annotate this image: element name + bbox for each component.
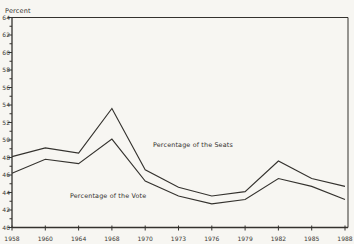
x-axis-tick-label: 1958 (4, 235, 19, 242)
y-axis-tick-label: 62 (2, 31, 10, 38)
x-axis-tick-label: 1985 (304, 235, 319, 242)
y-axis-tick-label: 50 (2, 136, 10, 143)
y-axis-tick-label: 64 (2, 14, 10, 21)
y-axis-tick-label: 46 (2, 171, 10, 178)
y-axis-tick-label: 42 (2, 206, 10, 213)
x-axis-tick-label: 1964 (71, 235, 86, 242)
x-axis-tick-label: 1960 (38, 235, 53, 242)
x-axis-tick-label: 1979 (237, 235, 252, 242)
x-axis-tick-label: 1988 (337, 235, 352, 242)
chart-figure: Percent 40424446485052545658606264195819… (0, 0, 354, 244)
y-axis-tick-label: 48 (2, 154, 10, 161)
series-annotation: Percentage of the Seats (153, 141, 233, 149)
y-axis-tick-label: 40 (2, 224, 10, 231)
y-axis-tick-label: 56 (2, 84, 10, 91)
chart-canvas: 4042444648505254565860626419581960196419… (0, 0, 354, 244)
x-axis-tick-label: 1968 (104, 235, 119, 242)
x-axis-tick-label: 1970 (138, 235, 153, 242)
y-axis-tick-label: 44 (2, 189, 10, 196)
series-annotation: Percentage of the Vote (70, 192, 146, 200)
y-axis-tick-label: 52 (2, 119, 10, 126)
x-axis-tick-label: 1976 (204, 235, 219, 242)
x-axis-tick-label: 1982 (271, 235, 286, 242)
y-axis-tick-label: 60 (2, 49, 10, 56)
y-axis-tick-label: 58 (2, 66, 10, 73)
y-axis-tick-label: 54 (2, 101, 10, 108)
x-axis-tick-label: 1973 (171, 235, 186, 242)
